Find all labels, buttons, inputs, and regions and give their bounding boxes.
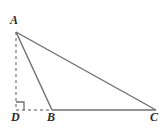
vertex-label-d: D xyxy=(11,111,20,123)
right-angle-marker-D xyxy=(16,102,24,110)
vertex-label-a: A xyxy=(10,14,18,26)
geometry-figure: A D B C xyxy=(0,0,166,130)
segment-AC xyxy=(16,32,156,110)
segment-AB xyxy=(16,32,52,110)
vertex-label-b: B xyxy=(47,111,55,123)
vertex-label-c: C xyxy=(150,111,158,123)
geometry-canvas xyxy=(0,0,166,130)
